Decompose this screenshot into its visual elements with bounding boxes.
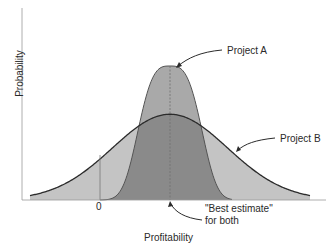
project-a-label: Project A	[227, 45, 267, 56]
best-estimate-arrow	[171, 204, 202, 220]
arrowhead-icon	[168, 201, 173, 207]
best-estimate-label-2: for both	[205, 215, 239, 226]
probability-distribution-chart	[0, 0, 326, 246]
x-axis-label: Profitability	[144, 232, 193, 243]
project-b-arrow	[238, 138, 275, 150]
project-a-arrow	[178, 50, 222, 66]
project-b-label: Project B	[280, 133, 321, 144]
zero-tick-label: 0	[96, 201, 102, 212]
best-estimate-label: "Best estimate"	[205, 203, 273, 214]
y-axis-label: Probability	[14, 44, 25, 104]
arrowhead-icon	[236, 146, 241, 152]
